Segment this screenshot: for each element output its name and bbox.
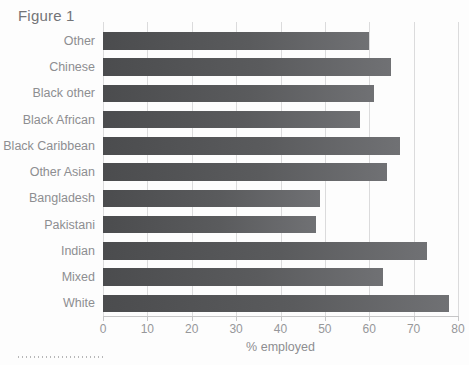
x-tick-label: 0 [100,322,107,336]
bar-black-other [103,85,374,103]
bar-track [103,32,458,50]
bar-row: Black African [0,111,458,129]
bar-mixed [103,268,383,286]
category-label: Other Asian [0,165,103,179]
bar-track [103,295,458,313]
x-tick-labels: 01020304050607080 [103,322,458,336]
category-label: Bangladesh [0,191,103,205]
bar-row: White [0,295,458,313]
bar-pakistani [103,216,316,234]
x-tick [236,317,237,321]
x-tick-label: 60 [363,322,376,336]
x-tick [103,317,104,321]
category-label: Pakistani [0,218,103,232]
bar-row: Pakistani [0,216,458,234]
bar-black-african [103,111,360,129]
bar-row: Bangladesh [0,190,458,208]
bar-other [103,32,369,50]
bar-track [103,137,458,155]
bar-row: Indian [0,242,458,260]
bar-row: Chinese [0,58,458,76]
bar-row: Other Asian [0,163,458,181]
bar-bangladesh [103,190,320,208]
bar-track [103,216,458,234]
x-tick-label: 30 [229,322,242,336]
x-tick-label: 70 [407,322,420,336]
x-tick-label: 10 [141,322,154,336]
scanned-figure-page: Figure 1 OtherChineseBlack otherBlack Af… [0,0,469,365]
category-label: Mixed [0,270,103,284]
x-tick-label: 80 [451,322,464,336]
bar-track [103,242,458,260]
category-label: Chinese [0,60,103,74]
category-label: Black other [0,86,103,100]
dotted-rule [18,356,106,358]
bar-white [103,295,449,313]
x-tick-label: 50 [318,322,331,336]
x-tick [414,317,415,321]
x-tick [281,317,282,321]
category-label: Other [0,34,103,48]
x-axis-title: % employed [103,340,458,354]
x-tick [147,317,148,321]
bar-other-asian [103,163,387,181]
bar-track [103,85,458,103]
bar-track [103,111,458,129]
bar-indian [103,242,427,260]
x-tick [192,317,193,321]
bar-track [103,163,458,181]
bar-row: Black Caribbean [0,137,458,155]
x-tick [458,317,459,321]
bar-track [103,190,458,208]
bar-row: Mixed [0,268,458,286]
gridline-80 [458,22,459,316]
bar-rows: OtherChineseBlack otherBlack AfricanBlac… [0,22,458,316]
bar-track [103,58,458,76]
bar-row: Black other [0,85,458,103]
x-tick [325,317,326,321]
category-label: Indian [0,244,103,258]
bar-black-caribbean [103,137,400,155]
x-tick [369,317,370,321]
category-label: Black African [0,113,103,127]
bar-chinese [103,58,391,76]
category-label: White [0,296,103,310]
x-tick-label: 20 [185,322,198,336]
bar-track [103,268,458,286]
bar-row: Other [0,32,458,50]
x-tick-label: 40 [274,322,287,336]
category-label: Black Caribbean [0,139,103,153]
